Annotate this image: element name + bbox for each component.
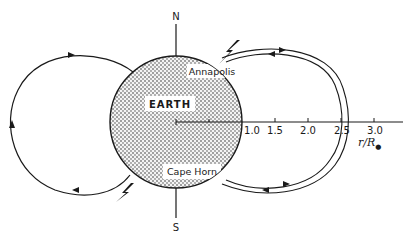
south-label: S [173, 222, 179, 233]
tick-label: 1.5 [267, 125, 283, 136]
tick-label: 1.0 [244, 125, 260, 136]
field-line-right-inner [226, 54, 342, 188]
whistler-diagram: N S EARTH Annapolis Cape Horn 1.0 1.5 2.… [0, 0, 405, 243]
arrow-icon [72, 187, 79, 193]
cape-horn-label: Cape Horn [167, 166, 217, 177]
tick-label: 3.0 [367, 125, 383, 136]
annapolis-label: Annapolis [189, 66, 235, 77]
earth-label: EARTH [149, 99, 191, 110]
north-label: N [172, 11, 179, 22]
axis-label: r/R● [358, 136, 381, 151]
axis-label-sub: ● [375, 143, 381, 151]
arrow-icon [268, 51, 275, 57]
tick-label: 2.0 [300, 125, 316, 136]
arrow-icon [68, 52, 75, 58]
tick-label: 2.5 [334, 125, 350, 136]
arrow-icon [279, 47, 286, 53]
